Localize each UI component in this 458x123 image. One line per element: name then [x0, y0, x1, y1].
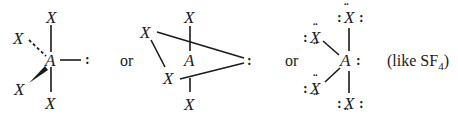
bond-upper-left	[323, 41, 339, 55]
annotation-suffix: )	[444, 52, 449, 70]
bond-x-to-lonepair	[157, 32, 244, 58]
lone-pair: :	[85, 52, 90, 67]
ligand-middle: X	[162, 69, 174, 88]
structure-seesaw: X X A : X X	[139, 8, 252, 114]
lone-pair-ul-left: :	[303, 30, 308, 45]
ligand-left: X	[139, 23, 151, 42]
central-atom: A	[339, 51, 351, 70]
lone-pair-bottom-left: :	[337, 96, 342, 111]
lone-pair-ll-below: ¨	[313, 91, 318, 106]
lone-pair-ul-below: ¨	[313, 40, 318, 55]
ligand-bottom: X	[44, 94, 56, 113]
lone-pair: :	[247, 53, 252, 68]
structure-wedge-dash: X X A : X X	[12, 8, 90, 113]
annotation-like-sf4: (like SF4)	[387, 52, 449, 72]
ligand-top: X	[183, 8, 195, 27]
ligand-top: X	[343, 8, 355, 27]
central-atom: A	[183, 51, 195, 70]
lone-pair-bottom-right: :	[359, 96, 364, 111]
lone-pair-top-left: :	[337, 10, 342, 25]
structure-lewis-dot: ¨ : X : ¨ : X ¨ A : ¨ : X ¨ : X : ¨	[303, 1, 364, 121]
ligand-back-left: X	[12, 29, 24, 48]
or-label-1: or	[120, 52, 134, 69]
lone-pair-top-right: :	[359, 10, 364, 25]
lone-pair-central: :	[356, 53, 361, 68]
bond-x-to-x	[151, 40, 165, 67]
bond-dashed-back	[29, 40, 46, 56]
ligand-top: X	[45, 8, 57, 27]
annotation-prefix: (like SF	[387, 52, 438, 70]
ligand-front-left: X	[13, 80, 25, 99]
ligand-bottom: X	[183, 95, 195, 114]
bond-lower-left	[325, 68, 340, 82]
lone-pair-ll-left: :	[303, 81, 308, 96]
molecular-geometry-diagram: X X A : X X or X X A : X X or ¨ : X : ¨ …	[0, 0, 458, 123]
or-label-2: or	[285, 52, 299, 69]
central-atom: A	[44, 51, 56, 70]
lone-pair-bottom-below: ¨	[344, 106, 349, 121]
